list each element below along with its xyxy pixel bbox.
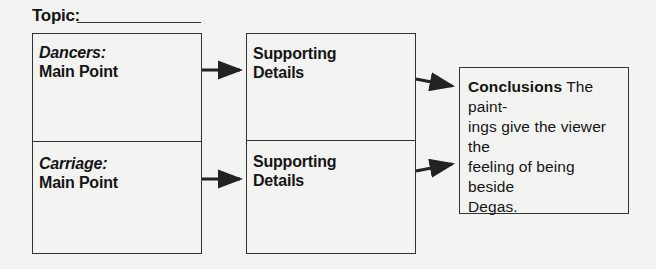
arrow-details2-to-conclusion <box>416 164 452 171</box>
connector-arrows <box>0 0 656 269</box>
arrow-details1-to-conclusion <box>416 79 452 86</box>
